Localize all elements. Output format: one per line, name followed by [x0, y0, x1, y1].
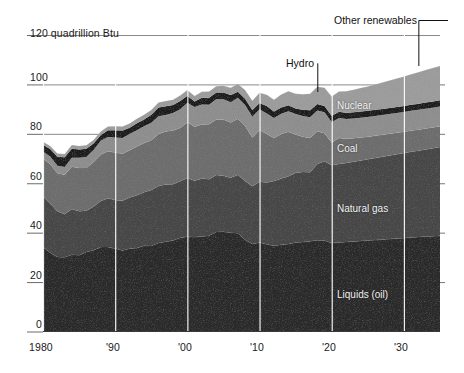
band-label-coal: Coal: [337, 143, 358, 154]
callout-label-other-renewables: Other renewables: [334, 14, 417, 26]
y-axis-unit-label: 120 quadrillion Btu: [30, 27, 119, 39]
callout-label-hydro: Hydro: [286, 57, 314, 69]
chart-figure: 120 quadrillion Btu 100 80 60 40 20 0 19…: [0, 0, 464, 373]
y-tick-100: 100: [30, 71, 48, 83]
x-tick-2010: '10: [250, 341, 264, 353]
y-tick-20: 20: [30, 269, 42, 281]
right-axis-ticks: [440, 85, 445, 283]
y-tick-0: 0: [36, 318, 42, 330]
x-tick-2000: '00: [178, 341, 192, 353]
x-tick-1980: 1980: [29, 341, 53, 353]
stacked-area-chart: [0, 0, 464, 373]
band-label-liquids: Liquids (oil): [337, 289, 388, 300]
band-label-nuclear: Nuclear: [337, 100, 371, 111]
y-tick-80: 80: [30, 120, 42, 132]
y-tick-60: 60: [30, 170, 42, 182]
band-label-natural-gas: Natural gas: [337, 203, 388, 214]
y-tick-40: 40: [30, 219, 42, 231]
x-tick-1990: '90: [106, 341, 120, 353]
x-tick-2020: '20: [322, 341, 336, 353]
x-tick-2030: '30: [394, 341, 408, 353]
